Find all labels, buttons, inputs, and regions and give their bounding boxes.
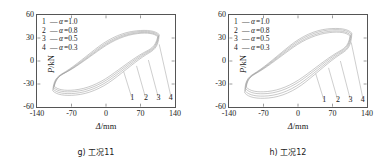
x-tick-label: 0 bbox=[296, 110, 300, 118]
callout-leader-lines-left bbox=[124, 44, 171, 97]
curve-callout: 1 bbox=[130, 94, 134, 102]
curve-callout: 4 bbox=[361, 96, 365, 104]
plot-area-left: 60 30 0 -30 -60 -140 -70 0 70 140 P/kN Δ… bbox=[36, 14, 176, 108]
legend-item: 4 — α =0.3 bbox=[234, 44, 270, 53]
x-tick-label: 70 bbox=[329, 110, 337, 118]
y-tick-label: 60 bbox=[26, 11, 34, 19]
y-tick-label: -30 bbox=[215, 80, 226, 88]
panel-caption-left: g) 工况11 bbox=[0, 146, 192, 157]
y-tick-label: 60 bbox=[218, 11, 226, 19]
y-tick-label: 0 bbox=[222, 57, 226, 65]
x-tick-label: 140 bbox=[169, 110, 181, 118]
x-axis-label: Δ/mm bbox=[229, 121, 367, 131]
x-axis-label: Δ/mm bbox=[37, 121, 175, 131]
y-tick-label: -30 bbox=[23, 80, 34, 88]
curve-callout: 3 bbox=[348, 96, 352, 104]
x-tick-label: -140 bbox=[30, 110, 45, 118]
x-tick-label: 0 bbox=[104, 110, 108, 118]
legend-dash: — bbox=[240, 44, 251, 53]
legend-value: =0.3 bbox=[64, 44, 78, 53]
hysteresis-figure: 60 30 0 -30 -60 -140 -70 0 70 140 P/kN Δ… bbox=[0, 0, 384, 168]
panel-caption-right: h) 工况12 bbox=[192, 146, 384, 157]
chart-panel-right: 60 30 0 -30 -60 -140 -70 0 70 140 P/kN Δ… bbox=[192, 0, 384, 168]
curve-callout: 2 bbox=[144, 94, 148, 102]
x-tick-label: 140 bbox=[361, 110, 373, 118]
legend-dash: — bbox=[48, 44, 59, 53]
callout-leader-lines-right bbox=[316, 42, 363, 99]
y-tick-label: 0 bbox=[30, 57, 34, 65]
curve-callout: 3 bbox=[156, 94, 160, 102]
plot-area-right: 60 30 0 -30 -60 -140 -70 0 70 140 P/kN Δ… bbox=[228, 14, 368, 108]
curve-callout: 4 bbox=[169, 94, 173, 102]
legend-left: 1 — α =1.0 2 — α =0.8 3 — α =0.5 bbox=[42, 18, 78, 52]
curve-callout: 1 bbox=[322, 96, 326, 104]
legend-value: =0.3 bbox=[256, 44, 270, 53]
x-tick-label: 70 bbox=[137, 110, 145, 118]
legend-item: 4 — α =0.3 bbox=[42, 44, 78, 53]
chart-panel-left: 60 30 0 -30 -60 -140 -70 0 70 140 P/kN Δ… bbox=[0, 0, 192, 168]
y-tick-label: 30 bbox=[218, 34, 226, 42]
x-tick-label: -140 bbox=[222, 110, 237, 118]
x-tick-label: -70 bbox=[66, 110, 77, 118]
legend-right: 1 — α =1.0 2 — α =0.8 3 — α =0.5 bbox=[234, 18, 270, 52]
x-tick-label: -70 bbox=[258, 110, 269, 118]
y-tick-label: 30 bbox=[26, 34, 34, 42]
curve-callout: 2 bbox=[336, 96, 340, 104]
